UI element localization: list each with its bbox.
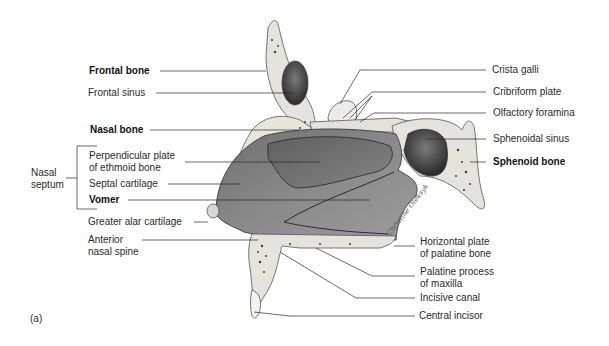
label-greater-alar-cartilage: Greater alar cartilage	[88, 216, 182, 228]
label-central-incisor: Central incisor	[419, 310, 483, 322]
label-anterior-nasal-spine: Anterior nasal spine	[88, 234, 139, 257]
label-incisive-canal: Incisive canal	[420, 292, 480, 304]
label-crista-galli: Crista galli	[492, 64, 539, 76]
label-frontal-sinus: Frontal sinus	[88, 87, 145, 99]
label-horizontal-plate: Horizontal plate of palatine bone	[420, 236, 491, 259]
label-sphenoid-bone: Sphenoid bone	[493, 156, 565, 168]
nasal-septum-illustration: Christine Oleksyk	[0, 0, 609, 346]
maxilla-shape	[249, 234, 396, 312]
frontal-sinus-cavity	[282, 61, 308, 105]
label-vomer: Vomer	[89, 194, 119, 206]
label-olfactory-foramina: Olfactory foramina	[493, 107, 575, 119]
label-septal-cartilage: Septal cartilage	[89, 178, 158, 190]
label-sphenoidal-sinus: Sphenoidal sinus	[493, 133, 569, 145]
label-cribriform-plate: Cribriform plate	[493, 86, 561, 98]
label-perpendicular-plate: Perpendicular plate of ethmoid bone	[89, 150, 175, 173]
label-palatine-process: Palatine process of maxilla	[420, 266, 494, 289]
panel-label: (a)	[30, 313, 42, 325]
label-frontal-bone: Frontal bone	[89, 65, 150, 77]
label-nasal-bone: Nasal bone	[90, 124, 143, 136]
greater-alar-cartilage-shape	[207, 204, 219, 218]
label-nasal-septum: Nasal septum	[31, 167, 64, 190]
sphenoidal-sinus-cavity	[404, 129, 447, 176]
